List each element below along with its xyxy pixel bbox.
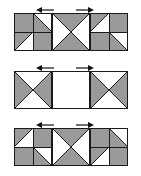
block-hourglass-vertical <box>52 13 90 51</box>
arrow-left-icon <box>36 64 54 70</box>
block-strip-row-2 <box>14 71 128 109</box>
pattern-row-3 <box>0 117 141 167</box>
pattern-diagram <box>0 0 141 176</box>
arrow-right-icon <box>76 6 94 12</box>
arrow-left-icon <box>36 121 54 127</box>
pattern-row-2 <box>0 60 141 110</box>
block-empty <box>52 71 90 109</box>
block-pinwheel-right <box>90 13 128 51</box>
arrow-right-icon <box>76 64 94 70</box>
block-hourglass-horizontal <box>14 71 52 109</box>
block-strip-row-1 <box>14 13 128 51</box>
arrow-left-icon <box>36 6 54 12</box>
block-pinwheel-right <box>90 128 128 166</box>
block-strip-row-3 <box>14 128 128 166</box>
arrow-right-icon <box>76 121 94 127</box>
block-pinwheel-left <box>14 13 52 51</box>
pattern-row-1 <box>0 2 141 52</box>
block-hourglass-horizontal <box>90 71 128 109</box>
block-pinwheel-left <box>14 128 52 166</box>
block-hourglass-vertical <box>52 128 90 166</box>
